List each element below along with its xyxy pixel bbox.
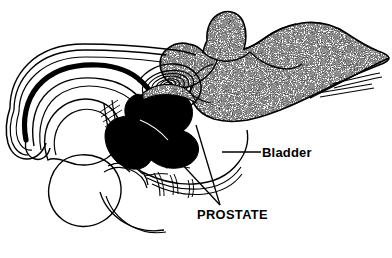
anatomy-figure: Bladder PROSTATE xyxy=(0,0,392,258)
bladder-shape xyxy=(160,12,389,122)
prostate-shape xyxy=(105,88,199,170)
prostate-label: PROSTATE xyxy=(197,207,268,222)
anatomy-illustration xyxy=(0,0,392,258)
bladder-label: Bladder xyxy=(262,145,312,160)
